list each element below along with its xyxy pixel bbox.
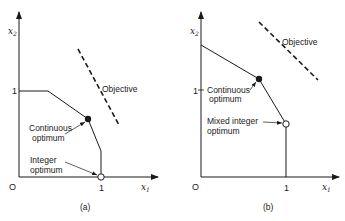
objective-label: Objective [102, 84, 138, 94]
continuous-optimum-point [256, 76, 262, 82]
mixed-integer-pointer [263, 122, 282, 123]
integer-pointer [65, 162, 97, 175]
origin-label: O [192, 182, 199, 192]
y-tick-1: 1 [12, 86, 17, 96]
x-axis-label: x1 [141, 182, 150, 193]
x-axis-label: x1 [322, 182, 331, 193]
optimization-figure: x2 x1 O 1 1 Objective Continuous optimum… [0, 0, 345, 221]
panel-b: x2 x1 O 1 1 Objective Continuous optimum… [190, 12, 339, 212]
y-tick-1: 1 [193, 86, 198, 96]
panel-b-caption: (b) [263, 202, 274, 212]
integer-optimum-label-2: optimum [30, 165, 63, 175]
y-axis-label: x2 [190, 26, 199, 37]
x-tick-1: 1 [99, 183, 104, 193]
origin-label: O [9, 182, 16, 192]
continuous-optimum-label: Continuous [29, 123, 72, 133]
objective-line [259, 22, 318, 80]
continuous-optimum-label-2: optimum [209, 94, 242, 104]
panel-a: x2 x1 O 1 1 Objective Continuous optimum… [8, 12, 158, 212]
integer-optimum-label: Integer [30, 155, 57, 165]
continuous-pointer [250, 82, 256, 90]
panel-a-caption: (a) [80, 202, 91, 212]
mixed-integer-optimum-label-2: optimum [207, 126, 240, 136]
x-tick-1: 1 [284, 183, 289, 193]
mixed-integer-optimum-point [283, 121, 289, 127]
integer-optimum-point [98, 174, 104, 180]
continuous-optimum-label-2: optimum [32, 133, 65, 143]
continuous-optimum-point [85, 116, 91, 122]
mixed-integer-optimum-label: Mixed integer [207, 116, 258, 126]
objective-label: Objective [282, 37, 318, 47]
y-axis-label: x2 [8, 26, 17, 37]
